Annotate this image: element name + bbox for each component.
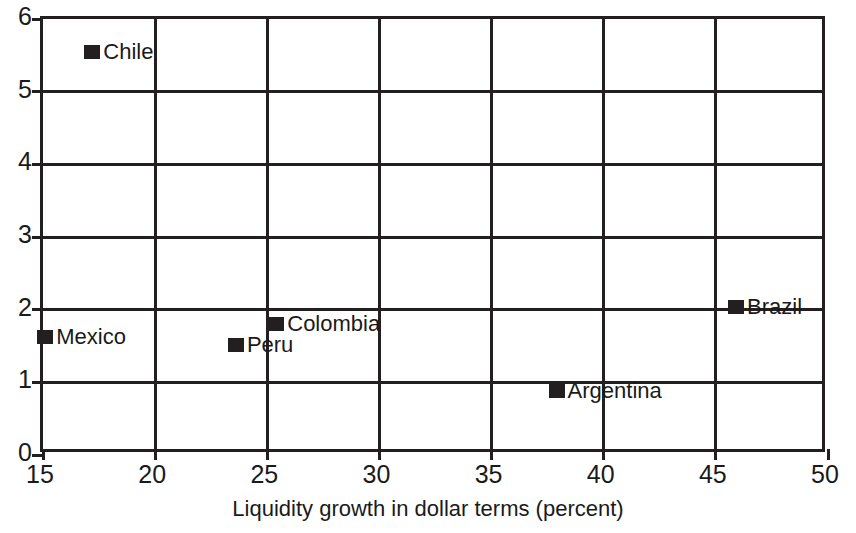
tick-y bbox=[32, 163, 43, 166]
tick-x bbox=[602, 449, 605, 460]
gridline-horizontal bbox=[43, 163, 822, 166]
x-tick-label: 40 bbox=[578, 462, 624, 487]
gridline-horizontal bbox=[43, 90, 822, 93]
point-marker bbox=[84, 45, 100, 59]
tick-y bbox=[32, 381, 43, 384]
tick-y bbox=[32, 454, 43, 457]
point-marker bbox=[37, 330, 53, 344]
point-marker bbox=[728, 300, 744, 314]
tick-y bbox=[32, 236, 43, 239]
point-marker bbox=[268, 317, 284, 331]
tick-x bbox=[714, 449, 717, 460]
x-tick-label: 30 bbox=[353, 462, 399, 487]
x-axis-title: Liquidity growth in dollar terms (percen… bbox=[0, 498, 856, 520]
tick-x bbox=[154, 449, 157, 460]
tick-x bbox=[827, 449, 830, 460]
x-tick-label: 50 bbox=[802, 462, 848, 487]
y-tick-label: 5 bbox=[8, 77, 32, 102]
point-marker bbox=[228, 338, 244, 352]
tick-x bbox=[490, 449, 493, 460]
point-label: Colombia bbox=[287, 313, 380, 335]
tick-y bbox=[32, 90, 43, 93]
y-tick-label: 2 bbox=[8, 295, 32, 320]
gridline-vertical bbox=[490, 19, 493, 449]
gridline-vertical bbox=[378, 19, 381, 449]
point-label: Mexico bbox=[56, 326, 126, 348]
scatter-chart: 0123456 ChileMexicoPeruColombiaArgentina… bbox=[0, 0, 856, 533]
y-tick-label: 4 bbox=[8, 149, 32, 174]
x-tick-label: 45 bbox=[690, 462, 736, 487]
gridline-horizontal bbox=[43, 236, 822, 239]
x-tick-label: 35 bbox=[466, 462, 512, 487]
point-label: Chile bbox=[103, 41, 153, 63]
tick-x bbox=[266, 449, 269, 460]
y-tick-label: 3 bbox=[8, 222, 32, 247]
y-tick-label: 1 bbox=[8, 367, 32, 392]
gridline-vertical bbox=[154, 19, 157, 449]
point-marker bbox=[549, 384, 565, 398]
x-tick-label: 20 bbox=[129, 462, 175, 487]
point-label: Brazil bbox=[747, 296, 802, 318]
point-label: Peru bbox=[247, 334, 293, 356]
plot-area: ChileMexicoPeruColombiaArgentinaBrazil bbox=[40, 16, 825, 452]
tick-x bbox=[378, 449, 381, 460]
tick-y bbox=[32, 308, 43, 311]
x-tick-label: 25 bbox=[241, 462, 287, 487]
point-label: Argentina bbox=[568, 380, 662, 402]
x-tick-label: 15 bbox=[17, 462, 63, 487]
gridline-vertical bbox=[266, 19, 269, 449]
y-tick-label: 6 bbox=[8, 4, 32, 29]
tick-y bbox=[32, 18, 43, 21]
gridline-vertical bbox=[714, 19, 717, 449]
gridline-horizontal bbox=[43, 308, 822, 311]
gridline-horizontal bbox=[43, 381, 822, 384]
